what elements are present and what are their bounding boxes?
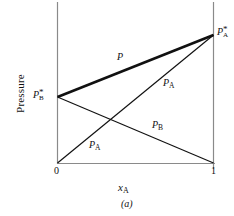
label-partial-pressure-a-lower: PA: [89, 140, 101, 152]
plot-canvas: [0, 0, 234, 216]
x-tick-label-1: 1: [211, 166, 216, 176]
label-partial-pressure-a-upper: PA: [163, 78, 175, 90]
label-p-total-base: P: [117, 51, 123, 62]
label-total-pressure-line: P: [117, 52, 123, 62]
label-pstar-b-subscript: B: [39, 95, 45, 102]
series-line-pb: [58, 97, 214, 163]
label-pure-b-vapor-pressure: P*B: [33, 90, 45, 102]
x-tick-label-0: 0: [54, 166, 59, 176]
label-pstar-b-affixes: *B: [39, 90, 45, 102]
figure-caption: (a): [121, 199, 133, 209]
series-line-total-pressure: [58, 35, 214, 97]
label-pstar-a-subscript: A: [223, 32, 229, 39]
y-axis-label: Pressure: [15, 44, 26, 144]
series-line-pa: [58, 35, 214, 163]
label-pa-upper-subscript: A: [169, 81, 174, 90]
label-pb-subscript: B: [158, 123, 163, 132]
x-axis-label: xA: [118, 182, 129, 195]
figure-raoults-law-diagram: Pressure xA 0 1 (a) P*A P*B P PA PA PB: [0, 0, 234, 216]
label-pure-a-vapor-pressure: P*A: [217, 27, 229, 39]
label-partial-pressure-b: PB: [152, 120, 163, 132]
label-pstar-a-affixes: *A: [223, 27, 229, 39]
label-pa-lower-subscript: A: [95, 143, 100, 152]
x-axis-label-subscript: A: [123, 186, 129, 195]
